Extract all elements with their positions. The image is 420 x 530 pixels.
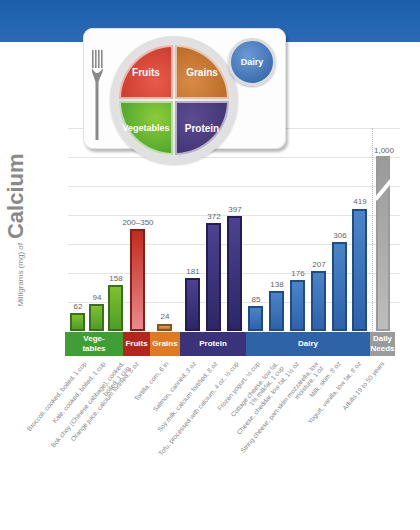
category-protein: Protein — [180, 332, 246, 356]
y-axis-prefix: Milligrams (mg) of — [16, 243, 25, 307]
plate-protein: Protein — [175, 101, 229, 155]
plate-dairy: Dairy — [228, 38, 276, 86]
value-label: 181 — [173, 267, 213, 276]
bar-tortilla — [157, 324, 172, 331]
y-axis-label: Milligrams (mg) of Calcium — [3, 150, 33, 310]
bar-frozen-yogurt — [248, 306, 263, 331]
x-label: Tofu, processed with calcium, 4 oz, ½ cu… — [157, 360, 240, 457]
category-grains: Grains — [150, 332, 180, 356]
value-label: 138 — [257, 280, 297, 289]
bar-yogurt — [352, 209, 367, 331]
x-label: Adults 19 to 50 years — [341, 360, 386, 411]
bar-soy-milk — [206, 223, 221, 331]
value-label: 306 — [320, 231, 360, 240]
value-label: 158 — [96, 274, 136, 283]
bar-salmon — [185, 278, 200, 331]
category-vegetables: Vege- tables — [65, 332, 123, 356]
value-label: 419 — [340, 197, 380, 206]
bar-broccoli — [70, 313, 85, 331]
category-daily-needs: Daily Needs — [370, 332, 395, 356]
bar-skim-milk — [332, 242, 347, 331]
myplate-card: Fruits Grains Vegetables Protein Dairy — [83, 28, 286, 149]
fork-icon — [91, 50, 103, 140]
value-label: 62 — [58, 302, 98, 311]
value-label: 24 — [145, 312, 185, 321]
plate-fruits: Fruits — [119, 45, 173, 99]
gridline — [68, 157, 400, 158]
plate-vegetables: Vegetables — [119, 101, 173, 155]
value-label: 207 — [299, 260, 339, 269]
bar-bok-choy — [108, 285, 123, 331]
value-label: 94 — [77, 293, 117, 302]
plate-grains: Grains — [175, 45, 229, 99]
value-label: 397 — [215, 205, 255, 214]
category-dairy: Dairy — [246, 332, 370, 356]
value-label: 176 — [278, 269, 318, 278]
bar-string-cheese — [311, 271, 326, 331]
daily-needs-divider — [372, 128, 373, 332]
bar-tofu — [227, 216, 242, 331]
value-label: 85 — [236, 295, 276, 304]
value-label: 1,000 — [364, 146, 404, 155]
category-fruits: Fruits — [123, 332, 150, 356]
plate: Fruits Grains Vegetables Protein — [110, 36, 238, 164]
value-label: 200–350 — [118, 218, 158, 227]
gridline — [68, 186, 400, 187]
y-axis-title: Calcium — [3, 153, 29, 239]
